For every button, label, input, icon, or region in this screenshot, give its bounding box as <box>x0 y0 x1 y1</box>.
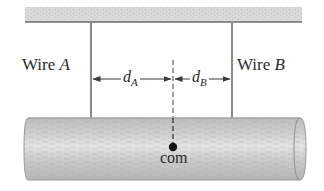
wire-a-label-prefix: Wire <box>22 55 55 74</box>
wire-b-label: Wire B <box>237 56 285 73</box>
distance-b-label: dB <box>190 69 209 88</box>
distance-a-subscript: A <box>131 76 138 88</box>
distance-b-symbol: d <box>192 68 200 85</box>
distance-a-label: dA <box>121 69 140 88</box>
distance-b-subscript: B <box>200 76 207 88</box>
com-label: com <box>160 150 188 166</box>
wire-b-label-prefix: Wire <box>237 55 270 74</box>
wire-a-label-letter: A <box>60 55 70 74</box>
wire-a-label: Wire A <box>22 56 70 73</box>
ceiling <box>25 7 302 22</box>
wire-b-label-letter: B <box>275 55 285 74</box>
distance-a-symbol: d <box>123 68 131 85</box>
